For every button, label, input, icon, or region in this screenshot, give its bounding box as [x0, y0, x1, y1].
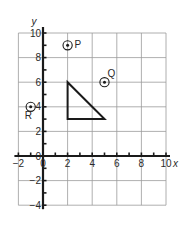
x-tick-label: 4: [89, 158, 95, 169]
y-tick-label: −4: [30, 200, 42, 211]
x-tick-label: 2: [65, 158, 71, 169]
y-tick-label: −2: [30, 175, 42, 186]
point-label: R: [25, 110, 32, 121]
y-tick-label: 8: [35, 52, 41, 63]
y-axis-label: y: [31, 16, 38, 27]
y-tick-label: 6: [35, 77, 41, 88]
x-tick-label: 8: [139, 158, 145, 169]
tick-labels: −20246810x−4−20246810y: [13, 16, 179, 211]
point-p: P: [63, 39, 82, 50]
triangle-shape: [68, 82, 105, 119]
point-label: Q: [108, 68, 116, 79]
y-tick-label: 0: [35, 151, 41, 162]
point-q: Q: [100, 68, 116, 87]
y-tick-label: 4: [35, 101, 41, 112]
y-tick-label: 10: [30, 28, 42, 39]
x-tick-label: 10: [160, 158, 172, 169]
x-tick-label: −2: [13, 158, 25, 169]
point-r: R: [25, 102, 36, 121]
coordinate-grid-diagram: −20246810x−4−20246810y PQR: [0, 0, 186, 227]
x-tick-label: 6: [114, 158, 120, 169]
y-tick-label: 2: [35, 126, 41, 137]
x-axis-label: x: [172, 158, 179, 169]
triangle: [68, 82, 105, 119]
point-dot-icon: [103, 81, 106, 84]
x-tick-label: 0: [40, 158, 46, 169]
point-dot-icon: [66, 44, 69, 47]
point-label: P: [75, 39, 82, 50]
point-dot-icon: [29, 105, 32, 108]
